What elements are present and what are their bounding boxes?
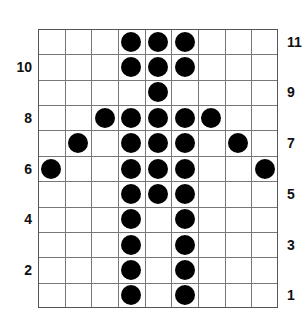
knitting-chart-grid <box>38 29 278 308</box>
filled-stitch-dot <box>175 57 195 77</box>
filled-stitch-dot <box>148 108 168 128</box>
filled-stitch-dot <box>148 57 168 77</box>
grid-row-line <box>39 181 277 182</box>
grid-column-line <box>198 30 199 307</box>
row-label-5: 5 <box>287 187 295 201</box>
filled-stitch-dot <box>228 133 248 153</box>
grid-row-line <box>39 130 277 131</box>
filled-stitch-dot <box>175 32 195 52</box>
filled-stitch-dot <box>68 133 88 153</box>
filled-stitch-dot <box>175 159 195 179</box>
grid-row-line <box>39 105 277 106</box>
grid-row-line <box>39 257 277 258</box>
filled-stitch-dot <box>148 159 168 179</box>
filled-stitch-dot <box>175 133 195 153</box>
grid-column-line <box>65 30 66 307</box>
row-label-2: 2 <box>10 263 32 277</box>
grid-column-line <box>118 30 119 307</box>
row-label-9: 9 <box>287 85 295 99</box>
grid-column-line <box>225 30 226 307</box>
filled-stitch-dot <box>175 260 195 280</box>
filled-stitch-dot <box>95 108 115 128</box>
grid-column-line <box>145 30 146 307</box>
grid-column-line <box>91 30 92 307</box>
filled-stitch-dot <box>175 235 195 255</box>
grid-row-line <box>39 54 277 55</box>
filled-stitch-dot <box>121 57 141 77</box>
filled-stitch-dot <box>121 32 141 52</box>
row-label-8: 8 <box>10 111 32 125</box>
filled-stitch-dot <box>41 159 61 179</box>
filled-stitch-dot <box>121 285 141 305</box>
row-label-1: 1 <box>287 288 295 302</box>
filled-stitch-dot <box>175 285 195 305</box>
row-label-10: 10 <box>10 60 32 74</box>
filled-stitch-dot <box>148 133 168 153</box>
filled-stitch-dot <box>148 82 168 102</box>
grid-row-line <box>39 207 277 208</box>
filled-stitch-dot <box>255 159 275 179</box>
row-label-4: 4 <box>10 212 32 226</box>
grid-column-line <box>171 30 172 307</box>
filled-stitch-dot <box>121 159 141 179</box>
grid-row-line <box>39 283 277 284</box>
row-label-6: 6 <box>10 162 32 176</box>
row-label-3: 3 <box>287 238 295 252</box>
grid-row-line <box>39 156 277 157</box>
filled-stitch-dot <box>121 209 141 229</box>
row-label-7: 7 <box>287 136 295 150</box>
filled-stitch-dot <box>148 184 168 204</box>
filled-stitch-dot <box>148 32 168 52</box>
filled-stitch-dot <box>121 184 141 204</box>
grid-row-line <box>39 232 277 233</box>
filled-stitch-dot <box>201 108 221 128</box>
filled-stitch-dot <box>175 209 195 229</box>
filled-stitch-dot <box>175 108 195 128</box>
grid-column-line <box>251 30 252 307</box>
filled-stitch-dot <box>121 260 141 280</box>
filled-stitch-dot <box>175 184 195 204</box>
filled-stitch-dot <box>121 133 141 153</box>
grid-row-line <box>39 80 277 81</box>
filled-stitch-dot <box>121 108 141 128</box>
row-label-11: 11 <box>287 35 302 49</box>
filled-stitch-dot <box>121 235 141 255</box>
